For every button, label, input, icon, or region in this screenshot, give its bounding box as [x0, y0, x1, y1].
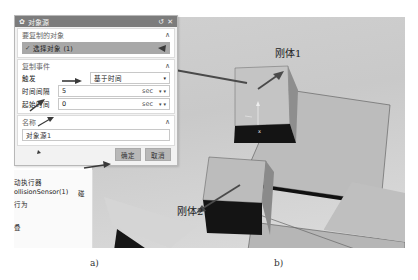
section-copy-object: 要复制的对象 ∧ ✓ 选择对象 (1) [17, 28, 175, 58]
section-header[interactable]: 名称 ∧ [18, 116, 174, 128]
tree-item-behavior[interactable]: 行为 [14, 199, 28, 209]
caption-a: a) [90, 258, 99, 268]
trigger-dropdown[interactable]: 基于时间 ▾ [90, 72, 170, 84]
start-time-label: 起始时间 [22, 99, 58, 109]
interval-unit[interactable]: sec [142, 87, 153, 95]
close-icon[interactable]: ✕ [167, 18, 173, 26]
unit-dropdown-icon[interactable]: ▾ [159, 101, 162, 107]
section-title: 要复制的对象 [22, 30, 64, 40]
section-title: 名称 [22, 117, 36, 127]
start-time-value: 0 [62, 100, 142, 108]
navigator-panel: 动执行器 ollisionSensor(1) 碰 行为 叠 [14, 170, 93, 248]
interval-value: 5 [62, 87, 142, 95]
rigid-body-1-label: 刚体1 [275, 45, 301, 60]
trigger-row: 触发 基于时间 ▾ [18, 72, 174, 84]
start-time-input[interactable]: 0 sec ▾ ▾ [58, 98, 170, 110]
tree-item-actuator[interactable]: 动执行器 [14, 177, 42, 187]
tree-item-extra: 碰 [78, 188, 85, 198]
chevron-up-icon[interactable]: ∧ [165, 62, 170, 70]
more-options-icon[interactable]: ▾ [163, 101, 166, 107]
tree-item-collision-sensor[interactable]: ollisionSensor(1) [14, 188, 68, 196]
axis-label: x [258, 128, 261, 134]
cube2-front [203, 200, 262, 235]
cube2-top [203, 157, 266, 203]
section-title: 复制事件 [22, 61, 50, 71]
dialog-titlebar[interactable]: ✿ 对象源 ↺ ✕ [15, 16, 177, 27]
gear-icon[interactable]: ✿ [19, 18, 25, 26]
section-header[interactable]: 要复制的对象 ∧ [18, 29, 174, 41]
name-input[interactable]: 对象源1 [22, 129, 170, 141]
dialog-title: 对象源 [28, 17, 155, 27]
caption-b: b) [274, 258, 283, 268]
dropdown-arrow-icon: ▾ [163, 75, 166, 81]
section-header[interactable]: 复制事件 ∧ [18, 60, 174, 72]
reset-icon[interactable]: ↺ [158, 18, 164, 26]
section-copy-event: 复制事件 ∧ 触发 基于时间 ▾ 时间间隔 5 sec ▾ ▾ 起始时间 0 s… [17, 59, 175, 114]
trigger-value: 基于时间 [94, 73, 122, 83]
trigger-label: 触发 [22, 73, 58, 83]
start-time-row: 起始时间 0 sec ▾ ▾ [18, 98, 174, 110]
check-icon: ✓ [25, 44, 30, 52]
dialog-buttons: 确定 取消 [115, 148, 171, 161]
tree-item-stack[interactable]: 叠 [14, 222, 21, 232]
cube1-front [234, 124, 296, 143]
section-name: 名称 ∧ 对象源1 [17, 115, 175, 146]
interval-label: 时间间隔 [22, 86, 58, 96]
object-source-dialog: ✿ 对象源 ↺ ✕ 要复制的对象 ∧ ✓ 选择对象 (1) 复制事件 ∧ 触发 … [14, 15, 178, 166]
rigid-body-2-label: 刚体2 [177, 203, 203, 218]
unit-dropdown-icon[interactable]: ▾ [159, 88, 162, 94]
chevron-up-icon[interactable]: ∧ [165, 31, 170, 39]
name-value: 对象源1 [26, 130, 51, 140]
start-time-unit[interactable]: sec [142, 100, 153, 108]
select-object-label: 选择对象 (1) [33, 43, 72, 53]
chevron-up-icon[interactable]: ∧ [165, 118, 170, 126]
select-object-row[interactable]: ✓ 选择对象 (1) [22, 42, 170, 54]
cancel-button[interactable]: 取消 [145, 148, 171, 161]
ok-button[interactable]: 确定 [115, 148, 141, 161]
interval-row: 时间间隔 5 sec ▾ ▾ [18, 85, 174, 97]
more-options-icon[interactable]: ▾ [163, 88, 166, 94]
interval-input[interactable]: 5 sec ▾ ▾ [58, 85, 170, 97]
